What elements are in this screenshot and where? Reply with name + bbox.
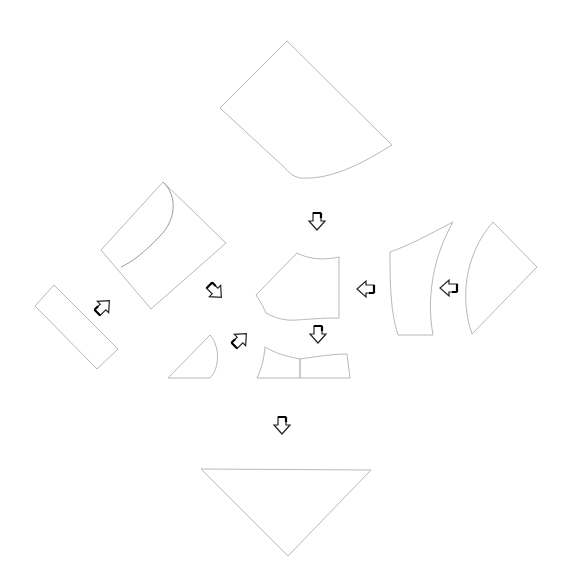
piece-split-band bbox=[257, 347, 350, 378]
piece-quarter-circle bbox=[168, 335, 218, 378]
piece-bottom-triangle bbox=[201, 469, 371, 556]
pattern-diagram bbox=[0, 0, 569, 579]
arrow-down-icon bbox=[309, 213, 325, 230]
piece-center-bodice bbox=[256, 253, 339, 320]
arrow-up-right-icon bbox=[229, 328, 252, 351]
arrow-left-icon bbox=[357, 281, 374, 297]
arrow-left-icon bbox=[440, 280, 457, 296]
arrow-down-icon bbox=[310, 326, 326, 343]
piece-left-square bbox=[101, 182, 226, 309]
arrow-up-right-icon bbox=[92, 295, 115, 318]
piece-top-panel bbox=[220, 41, 392, 178]
arrow-down-icon bbox=[274, 417, 290, 434]
piece-right-curved-panel bbox=[390, 222, 453, 335]
arrow-down-right-icon bbox=[204, 280, 227, 303]
piece-far-right-wedge bbox=[466, 222, 537, 334]
piece-left-strip bbox=[35, 285, 118, 369]
